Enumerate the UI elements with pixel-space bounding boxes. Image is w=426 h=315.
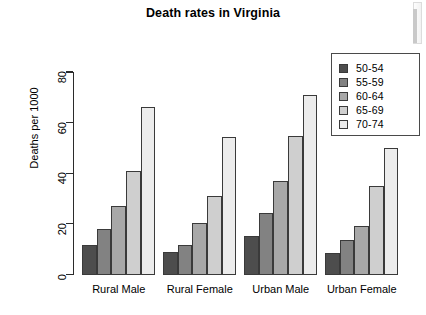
- legend-item[interactable]: 70-74: [339, 117, 384, 131]
- x-axis-group-label: Urban Female: [305, 283, 419, 295]
- legend-label: 50-54: [356, 62, 384, 74]
- bar: [259, 213, 274, 275]
- bar: [288, 136, 303, 274]
- legend-swatch-icon: [339, 92, 348, 101]
- y-tick-label: 0: [38, 268, 62, 282]
- bar: [369, 186, 384, 275]
- y-tick-label: 80: [38, 65, 62, 79]
- bar: [82, 245, 97, 275]
- scrollbar-thumb[interactable]: [413, 9, 417, 43]
- legend-swatch-icon: [339, 64, 348, 73]
- legend-box: 50-5455-5960-6465-6970-74: [331, 53, 420, 136]
- y-tick-label-text: 20: [56, 223, 68, 263]
- chart-canvas: Death rates in Virginia Deaths per 1000 …: [0, 0, 426, 315]
- legend-label: 55-59: [356, 76, 384, 88]
- bar: [178, 245, 193, 275]
- legend-item[interactable]: 65-69: [339, 103, 384, 117]
- legend-label: 65-69: [356, 104, 384, 116]
- y-tick-label-text: 80: [56, 71, 68, 111]
- y-tick-label-text: 40: [56, 172, 68, 212]
- y-tick-label: 20: [38, 217, 62, 231]
- y-tick-label-text: 60: [56, 122, 68, 162]
- legend-swatch-icon: [339, 78, 348, 87]
- bar: [163, 252, 178, 274]
- y-tick-label: 40: [38, 166, 62, 180]
- bar: [111, 206, 126, 274]
- bar: [244, 236, 259, 275]
- bar: [97, 229, 112, 275]
- bar: [354, 226, 369, 275]
- legend-label: 70-74: [356, 118, 384, 130]
- chart-title: Death rates in Virginia: [0, 6, 426, 20]
- bar: [222, 137, 237, 274]
- legend-swatch-icon: [339, 106, 348, 115]
- scrollbar-artifact[interactable]: [413, 2, 422, 44]
- legend-item[interactable]: 50-54: [339, 61, 384, 75]
- legend-item[interactable]: 60-64: [339, 89, 384, 103]
- y-tick-label: 60: [38, 116, 62, 130]
- bar: [325, 253, 340, 274]
- bar: [384, 148, 399, 275]
- legend-swatch-icon: [339, 120, 348, 129]
- bar: [207, 196, 222, 274]
- bar: [126, 171, 141, 275]
- bar: [273, 181, 288, 275]
- legend-label: 60-64: [356, 90, 384, 102]
- bar: [141, 107, 156, 274]
- bar: [340, 240, 355, 274]
- bar: [303, 95, 318, 275]
- legend-item[interactable]: 55-59: [339, 75, 384, 89]
- bar: [192, 223, 207, 274]
